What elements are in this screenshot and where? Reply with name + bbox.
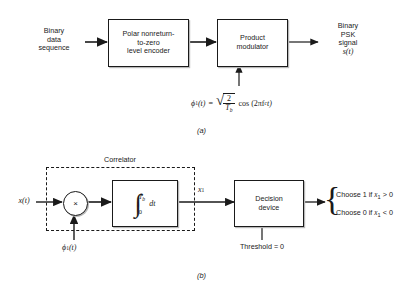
decision-rules: Choose 1 if x1 > 0 Choose 0 if x1 < 0 (336, 187, 393, 222)
block-decision-device-label: Decision device (255, 195, 283, 213)
integral-limits: Tb 0 (139, 193, 145, 215)
formula-lhs-arg: (t) (198, 99, 206, 108)
local-carrier-arg: (t) (69, 243, 77, 252)
integral-upper-limit: Tb (139, 193, 145, 202)
caption-a: (a) (0, 126, 403, 135)
decision-rule-2-prefix: Choose 0 if (336, 208, 374, 217)
decision-rule-1: Choose 1 if x1 > 0 (336, 187, 393, 205)
integral-lower-limit: 0 (139, 208, 145, 215)
decision-rule-2-cmp: < 0 (381, 208, 393, 217)
label-binary-data-sequence: Binary data sequence (23, 27, 85, 53)
block-polar-nrz-level-encoder-label: Polar nonreturn- to-zero level encoder (123, 30, 175, 56)
block-product-modulator[interactable]: Product modulator (217, 19, 288, 67)
formula-carrier-phi1: ϕ1(t) = √ 2 Tb cos (2πfct) (191, 93, 272, 113)
decision-rule-1-cmp: > 0 (381, 190, 393, 199)
formula-equals: = (209, 99, 214, 108)
block-polar-nrz-level-encoder[interactable]: Polar nonreturn- to-zero level encoder (108, 19, 189, 67)
fraction-numerator: 2 (225, 95, 233, 103)
integral-differential: dt (149, 199, 155, 208)
label-output-signal-symbol: s(t) (318, 48, 378, 57)
block-decision-device[interactable]: Decision device (234, 180, 304, 227)
correlator-output-sub: 1 (202, 187, 205, 193)
label-binary-psk-signal: Binary PSK signal (318, 22, 378, 48)
figure-canvas: Binary data sequence Polar nonreturn- to… (0, 0, 403, 292)
label-input-xt: x(t) (10, 197, 38, 206)
fraction-denominator-sub: b (230, 107, 233, 113)
block-product-modulator-label: Product modulator (237, 34, 269, 52)
label-threshold: Threshold = 0 (212, 243, 312, 252)
integral-upper-limit-sub: b (142, 195, 145, 201)
multiplier-symbol: × (73, 199, 78, 208)
caption-b: (b) (0, 271, 403, 280)
decision-rule-2: Choose 0 if x1 < 0 (336, 205, 393, 223)
fraction-two-over-tb: 2 Tb (223, 95, 234, 113)
block-integrator[interactable]: ∫ Tb 0 dt (112, 180, 178, 227)
decision-rule-1-prefix: Choose 1 if (336, 190, 374, 199)
formula-cos-tail: t) (267, 99, 272, 108)
fraction-denominator: Tb (223, 103, 234, 113)
label-correlator: Correlator (85, 156, 155, 165)
label-correlator-output-x1: x1 (198, 185, 204, 194)
integrator-expression: ∫ Tb 0 dt (135, 193, 156, 215)
sqrt-radicand: 2 Tb (223, 93, 234, 113)
formula-cos-expression: cos (2πf (239, 99, 265, 108)
label-local-carrier-phi1: ϕ1(t) (62, 243, 77, 252)
formula-sqrt: √ 2 Tb (216, 93, 234, 113)
multiplier-node[interactable]: × (63, 191, 88, 216)
